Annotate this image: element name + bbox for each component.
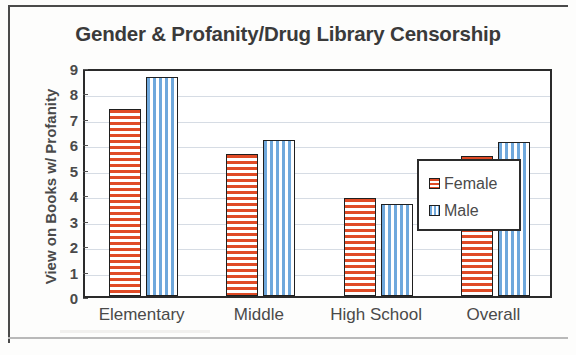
chart-title: Gender & Profanity/Drug Library Censorsh…: [0, 22, 576, 46]
y-tick-label: 9: [52, 61, 78, 78]
y-tick-mark: [83, 69, 88, 70]
y-tick-label: 6: [52, 137, 78, 154]
bar-male-middle: [263, 140, 295, 296]
x-axis-category-labels: ElementaryMiddleHigh SchoolOverall: [83, 305, 552, 335]
y-tick-label: 7: [52, 111, 78, 128]
y-tick-mark: [83, 273, 88, 274]
plot-area: Female Male: [83, 69, 552, 298]
y-tick-mark: [83, 247, 88, 248]
y-tick-mark: [83, 171, 88, 172]
y-tick-mark: [83, 94, 88, 95]
x-axis-label-overall: Overall: [466, 305, 520, 325]
y-tick-mark: [83, 298, 88, 299]
y-tick-mark: [83, 196, 88, 197]
y-tick-label: 0: [52, 290, 78, 307]
y-tick-label: 8: [52, 86, 78, 103]
legend-label-female: Female: [444, 175, 497, 193]
x-axis-label-middle: Middle: [234, 305, 284, 325]
y-tick-label: 4: [52, 188, 78, 205]
bar-female-middle: [226, 154, 258, 296]
legend-item-female: Female: [429, 170, 519, 197]
y-axis-tick-labels: 0123456789: [52, 60, 78, 307]
bar-male-elementary: [146, 77, 178, 296]
scanned-page: Gender & Profanity/Drug Library Censorsh…: [0, 0, 576, 355]
chart-legend: Female Male: [417, 159, 521, 231]
legend-label-male: Male: [444, 202, 479, 220]
bar-female-elementary: [109, 109, 141, 296]
x-axis-label-elementary: Elementary: [99, 305, 185, 325]
y-tick-mark: [83, 222, 88, 223]
page-border-bottom: [8, 337, 568, 339]
y-tick-mark: [83, 145, 88, 146]
y-tick-label: 5: [52, 162, 78, 179]
bar-male-high-school: [381, 204, 413, 296]
legend-swatch-male-icon: [429, 205, 440, 216]
y-tick-label: 3: [52, 213, 78, 230]
y-tick-label: 1: [52, 264, 78, 281]
y-tick-mark: [83, 120, 88, 121]
bar-female-high-school: [344, 198, 376, 296]
y-tick-label: 2: [52, 239, 78, 256]
x-axis-label-high-school: High School: [330, 305, 422, 325]
legend-swatch-female-icon: [429, 178, 440, 189]
legend-item-male: Male: [429, 197, 519, 224]
